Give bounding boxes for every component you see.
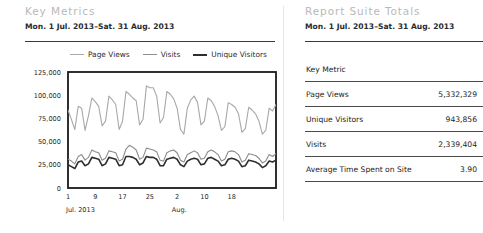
x-axis-tick-label: 9: [93, 193, 97, 201]
legend-swatch-icon: [70, 54, 84, 55]
legend-item-visits[interactable]: Visits: [143, 50, 181, 59]
metric-name: Average Time Spent on Site: [305, 157, 430, 182]
table-header-row: Key Metric: [305, 57, 483, 82]
plot-area-border: [68, 72, 276, 188]
x-axis-tick-label: 25: [146, 193, 154, 201]
metric-value: 5,332,329: [430, 82, 483, 107]
y-axis-tick-label: 50,000: [38, 138, 61, 146]
key-metrics-panel: Key Metrics Mon. 1 Jul. 2013–Sat. 31 Aug…: [8, 0, 283, 233]
metric-name: Visits: [305, 132, 430, 157]
x-axis-tick-label: 17: [118, 193, 126, 201]
legend-label: Unique Visitors: [211, 50, 267, 59]
column-header-value: [430, 57, 483, 82]
table-row[interactable]: Unique Visitors943,856: [305, 107, 483, 132]
y-axis-tick-label: 0: [57, 185, 61, 193]
y-axis-tick-label: 100,000: [34, 92, 61, 100]
legend-label: Visits: [161, 50, 181, 59]
page-title: Key Metrics: [25, 5, 95, 17]
metric-value: 3.90: [430, 157, 483, 182]
x-axis-tick-label: 10: [200, 193, 208, 201]
y-axis-tick-label: 25,000: [38, 161, 61, 169]
panel-title: Report Suite Totals: [305, 5, 420, 17]
metric-value: 943,856: [430, 107, 483, 132]
x-axis-period-label: Jul. 2013: [65, 206, 95, 214]
chart-legend: Page Views Visits Unique Visitors: [70, 50, 267, 59]
report-suite-totals-panel: Report Suite Totals Mon. 1 Jul. 2013–Sat…: [288, 0, 476, 233]
legend-label: Page Views: [88, 50, 130, 59]
y-axis-tick-label: 125,000: [34, 69, 61, 77]
legend-item-page-views[interactable]: Page Views: [70, 50, 130, 59]
legend-swatch-icon: [193, 54, 207, 56]
key-metrics-chart[interactable]: 125,000100,00075,00050,00025,00001917252…: [20, 64, 282, 224]
legend-swatch-icon: [143, 54, 157, 55]
table-row[interactable]: Page Views5,332,329: [305, 82, 483, 107]
x-axis-tick-label: 18: [227, 193, 235, 201]
table-row[interactable]: Average Time Spent on Site3.90: [305, 157, 483, 182]
metric-name: Unique Visitors: [305, 107, 430, 132]
header-rule: [305, 41, 483, 42]
table-row[interactable]: Visits2,339,404: [305, 132, 483, 157]
date-range-label: Mon. 1 Jul. 2013–Sat. 31 Aug. 2013: [25, 22, 174, 31]
chart-canvas: 125,000100,00075,00050,00025,00001917252…: [20, 64, 282, 224]
x-axis-tick-label: 1: [66, 193, 70, 201]
panel-divider: [283, 6, 284, 221]
column-header-key-metric: Key Metric: [305, 57, 430, 82]
x-axis-period-label: Aug.: [172, 206, 187, 214]
metric-name: Page Views: [305, 82, 430, 107]
legend-item-unique-visitors[interactable]: Unique Visitors: [193, 50, 267, 59]
header-rule: [25, 41, 275, 42]
metric-value: 2,339,404: [430, 132, 483, 157]
date-range-label: Mon. 1 Jul. 2013–Sat. 31 Aug. 2013: [305, 22, 454, 31]
y-axis-tick-label: 75,000: [38, 115, 61, 123]
x-axis-tick-label: 2: [175, 193, 179, 201]
key-metrics-table: Key Metric Page Views5,332,329Unique Vis…: [305, 57, 483, 182]
